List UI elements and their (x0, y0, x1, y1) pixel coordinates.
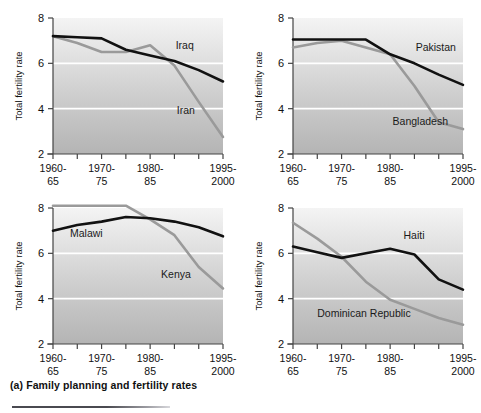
x-tick-label-top-1: 1970- (88, 162, 115, 174)
y-tick-label-6: 6 (278, 247, 284, 259)
series-label-haiti: Haiti (404, 229, 425, 241)
series-label-pakistan: Pakistan (416, 41, 456, 53)
chart-panel-top-right: 24681960-651970-751980-851995-2000Total … (240, 2, 480, 192)
chart-svg-top-left: 24681960-651970-751980-851995-2000Total … (0, 2, 240, 192)
x-tick-label-bottom-0: 65 (287, 175, 299, 187)
y-tick-label-2: 2 (38, 338, 44, 350)
y-tick-label-2: 2 (278, 148, 284, 160)
x-tick-label-bottom-1: 75 (336, 175, 348, 187)
x-tick-label-top-3: 1995- (210, 162, 237, 174)
y-tick-label-6: 6 (278, 57, 284, 69)
y-tick-label-4: 4 (278, 103, 284, 115)
chart-svg-bottom-right: 24681960-651970-751980-851995-2000Total … (240, 192, 480, 382)
x-tick-label-bottom-0: 65 (287, 365, 299, 377)
x-tick-label-top-0: 1960- (280, 352, 307, 364)
series-label-dominican-republic: Dominican Republic (317, 307, 410, 319)
x-tick-label-bottom-3: 2000 (451, 365, 475, 377)
chart-svg-top-right: 24681960-651970-751980-851995-2000Total … (240, 2, 480, 192)
chart-svg-bottom-left: 24681960-651970-751980-851995-2000Total … (0, 192, 240, 382)
series-label-malawi: Malawi (70, 227, 103, 239)
x-tick-label-bottom-3: 2000 (211, 175, 235, 187)
x-tick-label-top-1: 1970- (88, 352, 115, 364)
y-tick-label-8: 8 (278, 12, 284, 24)
series-label-bangladesh: Bangladesh (393, 115, 449, 127)
chart-panel-bottom-left: 24681960-651970-751980-851995-2000Total … (0, 192, 240, 382)
x-tick-label-top-0: 1960- (40, 352, 67, 364)
y-tick-label-6: 6 (38, 247, 44, 259)
y-axis-title: Total fertility rate (253, 51, 264, 120)
chart-grid: 24681960-651970-751980-851995-2000Total … (0, 0, 481, 378)
y-tick-label-6: 6 (38, 57, 44, 69)
x-tick-label-top-0: 1960- (40, 162, 67, 174)
x-tick-label-bottom-2: 85 (384, 365, 396, 377)
figure-caption: (a) Family planning and fertility rates (10, 379, 197, 391)
series-label-iraq: Iraq (176, 39, 194, 51)
y-tick-label-4: 4 (38, 293, 44, 305)
y-axis-title: Total fertility rate (253, 241, 264, 310)
x-tick-label-bottom-1: 75 (336, 365, 348, 377)
x-tick-label-top-2: 1980- (377, 352, 404, 364)
y-axis-title: Total fertility rate (13, 241, 24, 310)
x-tick-label-bottom-1: 75 (96, 175, 108, 187)
x-tick-label-top-2: 1980- (137, 352, 164, 364)
bottom-divider-rule (12, 406, 170, 408)
series-label-kenya: Kenya (161, 268, 191, 280)
x-tick-label-top-2: 1980- (137, 162, 164, 174)
x-tick-label-bottom-2: 85 (384, 175, 396, 187)
x-tick-label-bottom-1: 75 (96, 365, 108, 377)
x-tick-label-top-1: 1970- (328, 352, 355, 364)
x-tick-label-top-3: 1995- (450, 162, 477, 174)
y-tick-label-2: 2 (278, 338, 284, 350)
y-tick-label-2: 2 (38, 148, 44, 160)
x-tick-label-bottom-0: 65 (47, 175, 59, 187)
x-tick-label-top-3: 1995- (450, 352, 477, 364)
y-tick-label-8: 8 (278, 202, 284, 214)
x-tick-label-top-2: 1980- (377, 162, 404, 174)
x-tick-label-bottom-2: 85 (144, 365, 156, 377)
x-tick-label-bottom-3: 2000 (211, 365, 235, 377)
series-label-iran: Iran (177, 104, 195, 116)
y-tick-label-4: 4 (38, 103, 44, 115)
y-axis-title: Total fertility rate (13, 51, 24, 120)
x-tick-label-top-1: 1970- (328, 162, 355, 174)
chart-panel-top-left: 24681960-651970-751980-851995-2000Total … (0, 2, 240, 192)
y-tick-label-8: 8 (38, 202, 44, 214)
x-tick-label-bottom-0: 65 (47, 365, 59, 377)
x-tick-label-bottom-2: 85 (144, 175, 156, 187)
y-tick-label-8: 8 (38, 12, 44, 24)
x-tick-label-top-0: 1960- (280, 162, 307, 174)
x-tick-label-bottom-3: 2000 (451, 175, 475, 187)
chart-panel-bottom-right: 24681960-651970-751980-851995-2000Total … (240, 192, 480, 382)
y-tick-label-4: 4 (278, 293, 284, 305)
plot-background (293, 208, 463, 344)
x-tick-label-top-3: 1995- (210, 352, 237, 364)
